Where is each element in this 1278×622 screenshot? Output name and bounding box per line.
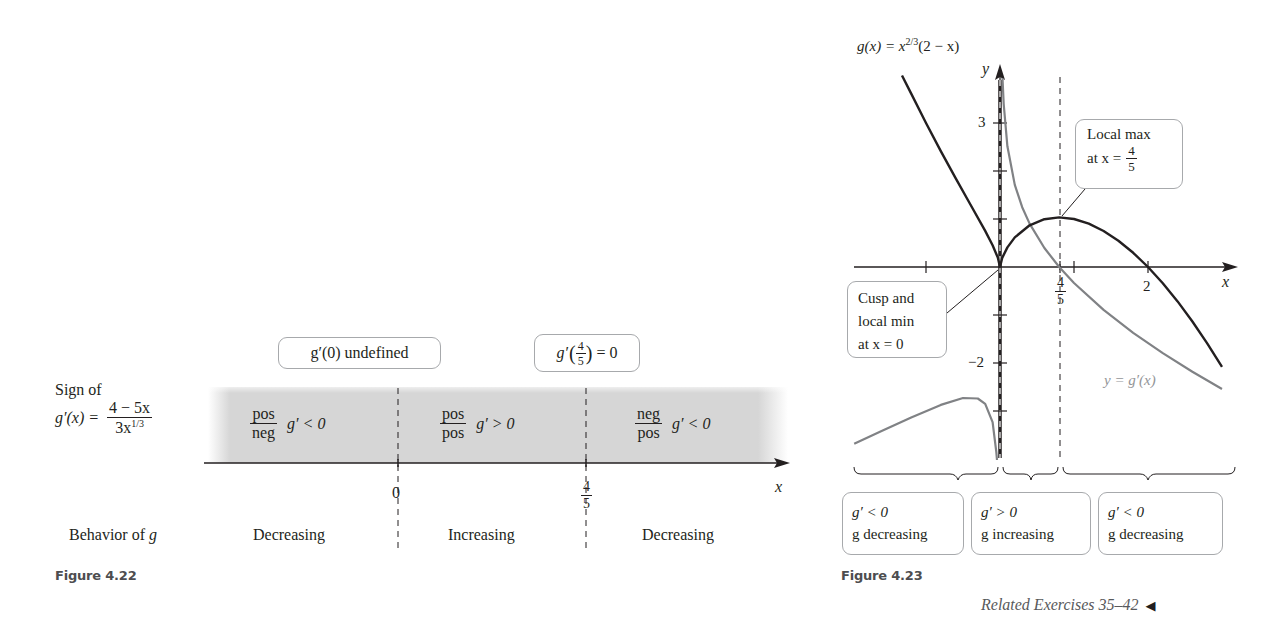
g-function-label: g(x) = x2/3(2 − x): [857, 36, 959, 55]
function-exponent: 2/3: [905, 36, 918, 47]
local-max-fraction: 4 5: [1126, 144, 1137, 173]
fraction-numerator: 4: [1055, 276, 1066, 292]
cusp-line2: local min: [858, 310, 946, 333]
interval-box-sign: g′ < 0: [852, 501, 963, 523]
function-rhs: (2 − x): [918, 38, 959, 54]
brace-interval-3: [1063, 467, 1235, 480]
interval-box-behavior: g decreasing: [852, 523, 963, 545]
y-tick-label-neg2: −2: [968, 354, 984, 371]
gprime-curve-left: [854, 398, 997, 460]
cusp-line1: Cusp and: [858, 287, 946, 310]
interval-box-sign: g′ < 0: [1108, 501, 1222, 523]
x-tick-label-4-5: 4 5: [1053, 276, 1068, 307]
interval-box-3: g′ < 0 g decreasing: [1098, 492, 1223, 555]
x-axis-label: x: [1222, 273, 1229, 291]
x-tick-label-2: 2: [1143, 278, 1151, 295]
end-arrow-icon: ◀: [1146, 598, 1156, 613]
local-max-leader: [1062, 189, 1085, 216]
y-axis-label: y: [982, 60, 989, 78]
figure-4-23-caption: Figure 4.23: [841, 568, 923, 583]
cusp-leader: [947, 270, 998, 313]
local-max-line1: Local max: [1087, 126, 1182, 143]
gprime-curve-label: y = g′(x): [1104, 372, 1156, 389]
cusp-annotation: Cusp and local min at x = 0: [847, 281, 947, 358]
related-exercises[interactable]: Related Exercises 35–42 ◀: [981, 596, 1156, 614]
interval-box-2: g′ > 0 g increasing: [971, 492, 1091, 555]
interval-box-behavior: g decreasing: [1108, 523, 1222, 545]
local-max-annotation: Local max at x = 4 5: [1075, 119, 1183, 189]
fraction-denominator: 5: [1126, 159, 1137, 173]
related-exercises-link[interactable]: Related Exercises 35–42: [981, 596, 1139, 613]
function-lhs: g(x) = x: [857, 38, 905, 54]
local-max-line2: at x = 4 5: [1087, 144, 1182, 173]
interval-box-1: g′ < 0 g decreasing: [842, 492, 964, 555]
brace-interval-1: [854, 467, 998, 480]
interval-box-behavior: g increasing: [981, 523, 1090, 545]
cusp-line3: at x = 0: [858, 333, 946, 356]
local-max-lhs: at x =: [1087, 150, 1121, 167]
fraction-numerator: 4: [1126, 144, 1137, 159]
fraction-denominator: 5: [1055, 292, 1066, 307]
brace-interval-2: [1003, 467, 1058, 480]
tick-fraction: 4 5: [1055, 276, 1066, 307]
y-tick-label-3: 3: [978, 114, 986, 131]
interval-box-sign: g′ > 0: [981, 501, 1090, 523]
